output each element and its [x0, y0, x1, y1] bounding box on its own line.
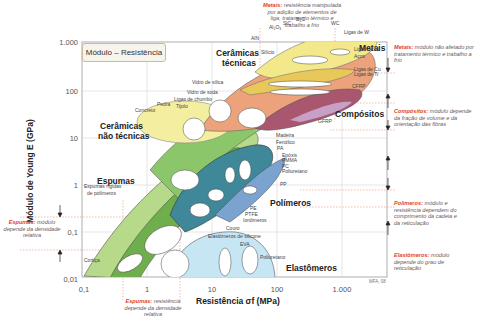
svg-text:Ligas de Ti: Ligas de Ti [354, 71, 378, 77]
svg-text:Polímeros: Polímeros [270, 198, 311, 208]
svg-text:0,01: 0,01 [63, 275, 78, 284]
svg-text:10: 10 [208, 285, 216, 294]
svg-text:Elastômeros: Elastômeros [286, 263, 337, 273]
annotation-espumas-modulus: Espumas: módulo depende da densidade rel… [2, 219, 62, 239]
x-axis-ticks: 0,1 1 10 100 1.000 [79, 285, 352, 294]
annotation-label: Metais: [394, 44, 413, 50]
svg-text:100: 100 [271, 285, 284, 294]
annotation-elastomeros: Elastômeros: módulo depende do grau de r… [394, 252, 464, 272]
svg-text:Cerâmicas: Cerâmicas [216, 48, 259, 58]
chart-title: Módulo – Resistência [82, 43, 166, 62]
annotation-label: Compósitos: [394, 108, 428, 114]
svg-text:1: 1 [74, 181, 78, 190]
svg-text:Madeira: Madeira [276, 132, 294, 138]
svg-text:Espumas rígidas: Espumas rígidas [84, 183, 122, 189]
svg-text:1.000: 1.000 [333, 285, 352, 294]
svg-text:0,1: 0,1 [79, 285, 89, 294]
svg-text:Compósitos: Compósitos [335, 109, 384, 119]
svg-text:Ligas de chumbo: Ligas de chumbo [174, 96, 212, 102]
svg-text:CFRP: CFRP [352, 83, 366, 89]
svg-text:Cerâmicas: Cerâmicas [100, 121, 143, 131]
svg-text:Couro: Couro [226, 225, 240, 231]
annotation-label: Polímeros: [394, 200, 423, 206]
annotation-label: Elastômeros: [394, 252, 429, 258]
svg-text:100: 100 [65, 87, 78, 96]
svg-text:de polímeros: de polímeros [87, 190, 116, 196]
svg-text:Cortiça: Cortiça [84, 257, 100, 263]
svg-text:AlN: AlN [251, 35, 259, 41]
annotation-compositos: Compósitos: módulo depende da fração de … [394, 108, 478, 128]
svg-text:Ligas de Ni: Ligas de Ni [354, 46, 379, 52]
svg-text:PA: PA [277, 145, 284, 151]
annotation-label: Metais: [263, 2, 282, 8]
annotation-metais-strength: Metais: resistência manipulada por adiçã… [262, 2, 342, 28]
svg-text:Concreto: Concreto [135, 107, 156, 113]
annotation-metais-modulus: Metais: módulo não afetado por tratament… [394, 44, 474, 64]
svg-text:técnicas: técnicas [222, 58, 256, 68]
y-axis-ticks: 1.000 100 10 1 0,1 0,01 [59, 38, 78, 284]
annotation-label: Espumas: [125, 298, 152, 304]
svg-text:10: 10 [70, 134, 78, 143]
svg-text:Ionômeros: Ionômeros [243, 217, 267, 223]
x-axis-label: Resistência σf (MPa) [196, 296, 280, 306]
svg-text:Elastômeros de silicone: Elastômeros de silicone [208, 233, 261, 239]
svg-text:0,1: 0,1 [68, 228, 78, 237]
svg-text:Vidro de sílica: Vidro de sílica [192, 79, 224, 85]
credit-text: MFA, 08 [369, 279, 386, 284]
svg-text:não técnicas: não técnicas [98, 131, 150, 141]
svg-text:Pedra: Pedra [157, 101, 171, 107]
svg-text:Aços: Aços [354, 53, 366, 59]
svg-text:GFRP: GFRP [318, 118, 333, 124]
svg-text:Vidro de soda: Vidro de soda [187, 89, 218, 95]
svg-text:1: 1 [145, 285, 149, 294]
annotation-label: Espumas: [9, 219, 36, 225]
svg-text:Silício: Silício [261, 49, 275, 55]
svg-text:Tijolo: Tijolo [176, 103, 188, 109]
svg-text:PP: PP [280, 181, 287, 187]
svg-text:Poliuretano: Poliuretano [282, 168, 308, 174]
svg-text:Ligas de W: Ligas de W [344, 29, 369, 35]
svg-text:1.000: 1.000 [59, 38, 78, 47]
y-axis-label: Módulo de Young E (GPa) [25, 111, 35, 231]
annotation-espumas-strength: Espumas: resistência depende da densidad… [124, 298, 182, 318]
svg-text:EVA: EVA [240, 241, 250, 247]
svg-text:Poliuretano: Poliuretano [260, 254, 286, 260]
annotation-polimeros: Polímeros: módulo e resistência dependem… [394, 200, 464, 226]
